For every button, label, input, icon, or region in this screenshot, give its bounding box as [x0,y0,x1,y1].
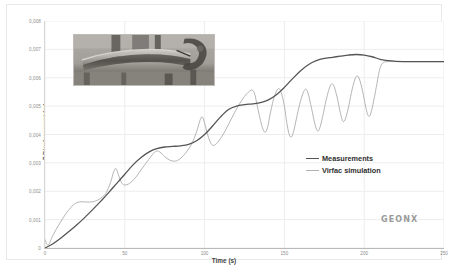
legend-swatch-line-icon [306,158,319,159]
x-tick-label: 0 [44,248,47,256]
geonx-logo: GEONXˇ [381,215,418,224]
legend-item-0[interactable]: Measurements [306,155,381,162]
legend-label: Measurements [322,155,373,162]
y-tick-label: 0,007 [29,47,45,52]
photo-image [74,35,214,85]
y-tick-label: 0,005 [29,104,45,109]
x-tick-label: 100 [201,248,209,256]
x-axis-title: Time (s) [212,257,236,264]
logo-text: GEON [381,215,411,224]
logo-tick-mark: ˇ [412,212,415,218]
y-tick-label: 0,003 [29,160,45,165]
x-tick-label: 200 [360,248,368,256]
y-tick-label: 0,004 [29,132,45,137]
chart-card: Z Displacement (m) 00,0010,0020,0030,004… [6,4,442,260]
x-tick-label: 150 [281,248,289,256]
legend-label: Virfac simulation [322,167,381,174]
legend-swatch-line-icon [306,170,319,171]
x-tick-label: 50 [122,248,127,256]
y-tick-label: 0,002 [29,189,45,194]
chart-legend: MeasurementsVirfac simulation [306,155,381,175]
y-tick-label: 0,001 [29,217,45,222]
welded-beam-photo [73,34,215,86]
y-tick-label: 0,006 [29,75,45,80]
y-tick-label: 0,008 [29,19,45,24]
logo-accent: Xˇ [411,215,418,224]
legend-item-1[interactable]: Virfac simulation [306,167,381,174]
x-tick-label: 250 [440,248,448,256]
